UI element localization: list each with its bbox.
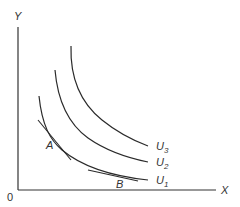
x-axis-label: X bbox=[220, 184, 229, 196]
curve-label-u2: U2 bbox=[156, 156, 169, 171]
indifference-curve-u2 bbox=[55, 70, 148, 162]
indifference-curve-u1 bbox=[39, 96, 148, 180]
indifference-curve-diagram: Y X 0 A B U3 U2 U1 bbox=[0, 0, 240, 207]
tangent-line-b bbox=[88, 170, 138, 181]
curve-label-u3: U3 bbox=[156, 140, 169, 155]
point-a-label: A bbox=[45, 139, 53, 151]
curve-label-u1: U1 bbox=[156, 174, 168, 189]
origin-label: 0 bbox=[7, 191, 13, 203]
indifference-curve-u3 bbox=[71, 46, 148, 146]
y-axis-label: Y bbox=[14, 10, 22, 22]
point-b-label: B bbox=[116, 178, 123, 190]
tangent-line-a bbox=[38, 120, 71, 160]
